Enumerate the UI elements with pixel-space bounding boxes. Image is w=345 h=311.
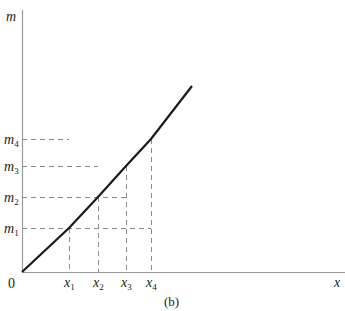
y-tick-m1: m1: [4, 221, 19, 238]
x-tick-x2: x2: [92, 275, 104, 292]
x-tick-labels: x1x2x3x4: [63, 275, 157, 292]
y-axis-label: m: [6, 9, 16, 24]
y-tick-m3: m3: [4, 159, 19, 176]
x-tick-x4: x4: [145, 275, 157, 292]
curve-m-of-x: [22, 86, 192, 272]
figure-canvas: m x 0 (b) m4m3m2m1 x1x2x3x4: [0, 0, 345, 311]
x-tick-x3: x3: [120, 275, 132, 292]
origin-label: 0: [8, 276, 15, 291]
y-tick-m2: m2: [4, 190, 19, 207]
x-axis-label: x: [333, 275, 341, 290]
y-tick-labels: m4m3m2m1: [4, 132, 19, 238]
y-tick-m4: m4: [4, 132, 19, 149]
figure-caption: (b): [164, 294, 179, 309]
x-tick-x1: x1: [63, 275, 75, 292]
